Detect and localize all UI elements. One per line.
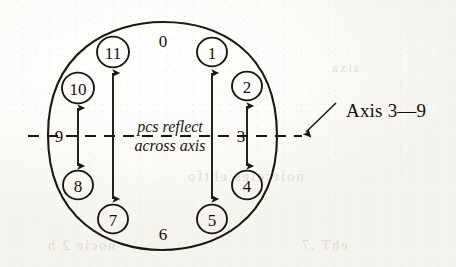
pitch-class-circle-11 — [97, 37, 129, 68]
pitch-class-circle-8 — [63, 171, 93, 200]
pitch-class-circle-2 — [232, 72, 262, 101]
axis-leader-line — [306, 103, 336, 132]
pitch-class-circle-7 — [98, 205, 128, 234]
pitch-class-circle-10 — [62, 73, 94, 104]
pitch-class-circle-5 — [197, 205, 227, 234]
clock-face-figure — [0, 0, 456, 267]
pitch-class-circle-4 — [232, 171, 262, 200]
pitch-class-circle-1 — [197, 38, 227, 67]
